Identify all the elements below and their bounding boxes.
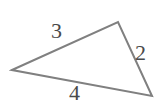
side-length-label-bottom: 4 — [69, 82, 80, 103]
triangle-outline — [12, 22, 152, 96]
triangle-figure: 3 2 4 — [0, 0, 165, 103]
side-length-label-upper-left: 3 — [51, 20, 62, 42]
side-length-label-right: 2 — [135, 42, 146, 64]
